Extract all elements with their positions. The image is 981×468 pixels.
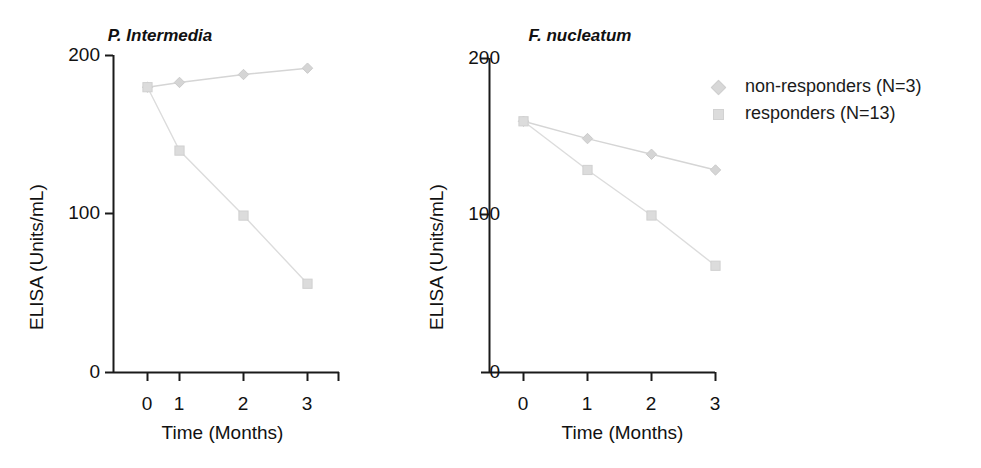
data-point-marker — [710, 165, 720, 175]
series-line-non-responders — [524, 121, 716, 170]
data-point-marker — [582, 133, 592, 143]
y-tick-label-200-left: 200 — [28, 44, 100, 66]
y-tick-label-200-right: 200 — [428, 47, 500, 69]
x-tick-label-2-left: 2 — [223, 393, 263, 415]
data-point-marker — [303, 279, 312, 288]
data-point-marker — [143, 83, 152, 92]
y-tick-label-0-left: 0 — [28, 361, 100, 383]
x-tick-label-0-right: 0 — [503, 393, 543, 415]
data-point-marker — [175, 146, 184, 155]
diamond-marker-icon — [706, 76, 728, 98]
data-point-marker — [238, 69, 248, 79]
data-point-marker — [583, 165, 592, 174]
x-axis-label-left: Time (Months) — [110, 422, 335, 444]
x-tick-label-1-right: 1 — [567, 393, 607, 415]
series-group-right — [518, 116, 720, 270]
y-tick-label-100-right: 100 — [428, 203, 500, 225]
legend-item-non-responders: non-responders (N=3) — [706, 74, 976, 99]
figure-container: P. Intermedia ELISA (Units/mL) 200 100 0… — [0, 0, 981, 468]
legend: non-responders (N=3) responders (N=13) — [706, 74, 976, 128]
series-line-non-responders — [148, 68, 308, 87]
data-point-marker — [174, 77, 184, 87]
legend-label-non-responders: non-responders (N=3) — [745, 76, 922, 97]
series-group-left — [142, 63, 312, 288]
panel-title-left: P. Intermedia — [30, 26, 290, 46]
panel-title-right: F. nucleatum — [450, 26, 710, 46]
data-point-marker — [239, 211, 248, 220]
x-tick-label-3-left: 3 — [287, 393, 327, 415]
x-tick-label-3-right: 3 — [695, 393, 735, 415]
series-line-responders — [524, 121, 716, 265]
chart-panel-p-intermedia: P. Intermedia ELISA (Units/mL) 200 100 0… — [0, 0, 420, 468]
plot-area-left — [0, 0, 420, 468]
data-point-marker — [711, 261, 720, 270]
y-tick-label-100-left: 100 — [28, 202, 100, 224]
x-axis-label-right: Time (Months) — [510, 422, 735, 444]
data-point-marker — [302, 63, 312, 73]
series-line-responders — [148, 87, 308, 284]
x-tick-label-1-left: 1 — [159, 393, 199, 415]
data-point-marker — [647, 211, 656, 220]
data-point-marker — [519, 117, 528, 126]
data-point-marker — [646, 149, 656, 159]
chart-panel-f-nucleatum: F. nucleatum ELISA (Units/mL) 200 100 0 … — [400, 0, 800, 468]
square-marker-icon — [706, 103, 728, 125]
legend-item-responders: responders (N=13) — [706, 101, 976, 126]
y-tick-label-0-right: 0 — [428, 361, 500, 383]
x-tick-label-2-right: 2 — [631, 393, 671, 415]
legend-label-responders: responders (N=13) — [745, 103, 896, 124]
